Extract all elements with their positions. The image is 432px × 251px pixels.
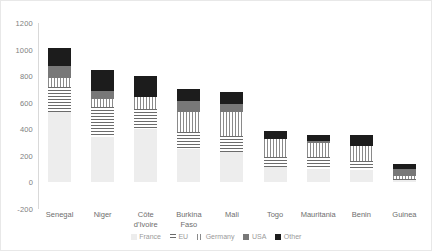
chart-container: 120010008006004002000-200 SenegalNigerCô… [0,0,432,251]
bar-stack[interactable] [264,131,287,182]
bar-segment-eu[interactable] [220,136,243,152]
bar-segment-france[interactable] [48,112,71,182]
x-tick-label: Togo [255,210,295,229]
bar-segment-usa[interactable] [220,104,243,112]
x-tick-label: Benin [342,210,382,229]
bar-segment-france[interactable] [177,149,200,182]
bar-segment-usa[interactable] [393,169,416,176]
bar-segment-other[interactable] [177,89,200,101]
bar-stack[interactable] [220,92,243,182]
bar-column[interactable] [212,23,252,209]
y-tick-label: 400 [20,125,33,134]
legend-item-usa[interactable]: USA [243,233,266,240]
bar-segment-other[interactable] [264,131,287,138]
y-tick-label: 1000 [16,45,34,54]
bar-column[interactable] [255,23,295,209]
legend-swatch-eu-icon [170,234,176,240]
bar-segment-germany[interactable] [350,146,373,161]
bar-stack[interactable] [177,89,200,183]
legend-label: Other [284,233,302,240]
chart-legend: FranceEUGermanyUSAOther [1,233,431,240]
bar-segment-other[interactable] [48,48,71,65]
bar-segment-france[interactable] [134,129,157,182]
x-tick-label: Mauritania [298,210,338,229]
x-tick-label: Niger [83,210,123,229]
legend-label: USA [252,233,266,240]
legend-swatch-france-icon [131,234,137,240]
x-axis-tick-labels: SenegalNigerCôted'IvoireBurkinaFasoMaliT… [38,210,426,229]
x-tick-label: Mali [212,210,252,229]
legend-swatch-other-icon [275,234,281,240]
bar-segment-usa[interactable] [177,101,200,112]
legend-swatch-germany-icon [197,234,203,240]
bar-segment-eu[interactable] [134,109,157,129]
bar-stack[interactable] [307,135,330,182]
x-tick-label-line: Côte [126,210,166,220]
legend-item-germany[interactable]: Germany [197,233,234,240]
legend-label: France [139,233,161,240]
bar-segment-other[interactable] [91,70,114,91]
x-tick-label-line: Senegal [40,210,80,220]
bar-series-group [38,23,426,209]
bar-segment-france[interactable] [220,152,243,183]
bar-segment-germany[interactable] [134,97,157,110]
legend-label: Germany [206,233,235,240]
y-tick-label: 600 [20,98,33,107]
x-tick-label-line: Guinea [385,210,425,220]
bar-segment-france[interactable] [393,180,416,182]
bar-segment-france[interactable] [91,137,114,182]
legend-label: EU [178,233,188,240]
y-tick-label: 200 [20,151,33,160]
bar-segment-germany[interactable] [48,78,71,87]
bar-segment-other[interactable] [134,76,157,97]
bar-segment-france[interactable] [307,169,330,182]
bar-segment-france[interactable] [350,170,373,183]
x-tick-label-line: Faso [169,220,209,230]
bar-stack[interactable] [393,164,416,183]
bar-segment-germany[interactable] [177,112,200,132]
x-tick-label-line: Burkina [169,210,209,220]
bar-segment-germany[interactable] [220,112,243,136]
legend-item-france[interactable]: France [131,233,161,240]
bar-column[interactable] [126,23,166,209]
bar-segment-france[interactable] [264,167,287,183]
bar-segment-eu[interactable] [307,157,330,170]
legend-swatch-usa-icon [243,234,249,240]
legend-item-other[interactable]: Other [275,233,301,240]
bar-segment-eu[interactable] [91,107,114,138]
bar-segment-germany[interactable] [307,143,330,156]
bar-column[interactable] [385,23,425,209]
bar-segment-eu[interactable] [177,132,200,149]
bar-segment-usa[interactable] [91,91,114,99]
bar-stack[interactable] [134,76,157,182]
bar-segment-other[interactable] [220,92,243,104]
bar-segment-usa[interactable] [48,66,71,78]
x-tick-label-line: d'Ivoire [126,220,166,230]
plot-area: 120010008006004002000-200 [38,23,426,209]
legend-item-eu[interactable]: EU [170,233,188,240]
x-tick-label-line: Mali [212,210,252,220]
bar-column[interactable] [169,23,209,209]
bar-stack[interactable] [350,135,373,182]
y-tick-label: 0 [29,178,33,187]
bar-column[interactable] [40,23,80,209]
bar-segment-eu[interactable] [350,161,373,170]
x-tick-label: Côted'Ivoire [126,210,166,229]
x-tick-label-line: Niger [83,210,123,220]
x-tick-label-line: Mauritania [298,210,338,220]
bar-column[interactable] [83,23,123,209]
bar-stack[interactable] [48,48,71,182]
y-tick-label: 1200 [16,19,34,28]
y-tick-label: 800 [20,72,33,81]
bar-segment-other[interactable] [350,135,373,146]
x-tick-label: Senegal [40,210,80,229]
bar-segment-eu[interactable] [264,157,287,166]
bar-column[interactable] [342,23,382,209]
bar-column[interactable] [298,23,338,209]
y-tick-label: -200 [17,205,33,214]
bar-stack[interactable] [91,70,114,182]
bar-segment-germany[interactable] [264,139,287,158]
bar-segment-eu[interactable] [48,87,71,112]
x-tick-label: Guinea [385,210,425,229]
bar-segment-germany[interactable] [91,99,114,107]
